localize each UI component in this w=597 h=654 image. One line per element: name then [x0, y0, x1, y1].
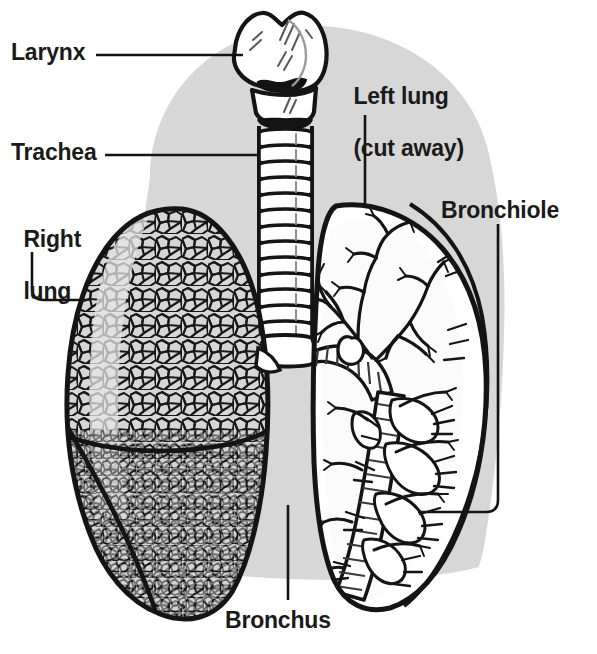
label-larynx: Larynx [11, 39, 85, 65]
trachea-structure [257, 126, 317, 367]
label-right-lung-line2: lung [23, 278, 71, 304]
label-trachea: Trachea [11, 139, 97, 165]
respiratory-system-diagram [0, 0, 597, 654]
label-bronchiole: Bronchiole [441, 197, 559, 223]
label-bronchus: Bronchus [225, 607, 331, 633]
label-right-lung-line1: Right [23, 226, 81, 252]
label-left-lung-line1: Left lung [353, 83, 448, 109]
label-left-lung-line2: (cut away) [353, 135, 463, 161]
label-right-lung: Right lung [11, 200, 81, 304]
label-left-lung: Left lung (cut away) [341, 57, 464, 161]
